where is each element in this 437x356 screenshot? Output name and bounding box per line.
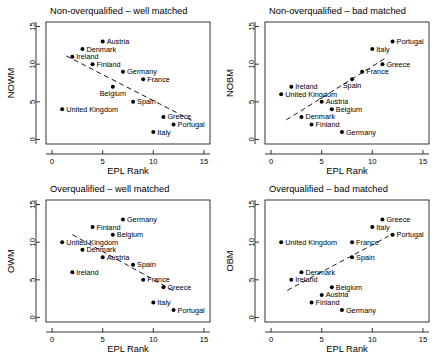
data-point bbox=[309, 300, 313, 304]
panel-non-overqualified-bad-matched: Non-overqualified – bad matched051015EPL… bbox=[219, 0, 437, 178]
x-tick-label: 5 bbox=[101, 335, 105, 344]
data-point bbox=[151, 130, 155, 134]
data-point bbox=[101, 40, 105, 44]
y-tick-label: 15 bbox=[29, 200, 38, 208]
data-point-label: Greece bbox=[386, 60, 410, 69]
data-point-label: Spain bbox=[137, 260, 156, 269]
x-tick-label: 10 bbox=[368, 157, 376, 166]
data-point bbox=[70, 55, 74, 59]
data-point-label: Belgium bbox=[100, 89, 126, 98]
data-point bbox=[279, 240, 283, 244]
panel-overqualified-well-matched: Overqualified – well matched051015EPL Ra… bbox=[0, 178, 218, 356]
data-point bbox=[172, 122, 176, 126]
y-tick-label: 0 bbox=[247, 137, 256, 141]
y-tick-label: 5 bbox=[29, 100, 38, 104]
x-axis-label: EPL Rank bbox=[107, 166, 149, 176]
data-point bbox=[172, 308, 176, 312]
y-axis-label: OBM bbox=[225, 250, 235, 271]
data-point-label: Belgium bbox=[117, 230, 143, 239]
data-point-label: Finland bbox=[315, 298, 339, 307]
data-point-label: Germany bbox=[345, 306, 375, 315]
data-point bbox=[339, 308, 343, 312]
data-point bbox=[370, 225, 374, 229]
x-axis-label: EPL Rank bbox=[107, 344, 149, 354]
y-tick-label: 5 bbox=[247, 278, 256, 282]
data-point-label: Portugal bbox=[396, 230, 424, 239]
y-tick-label: 0 bbox=[247, 315, 256, 319]
data-point bbox=[380, 218, 384, 222]
x-axis-label: EPL Rank bbox=[326, 166, 368, 176]
y-tick-label: 10 bbox=[247, 60, 256, 68]
data-point bbox=[299, 270, 303, 274]
y-tick-label: 15 bbox=[247, 22, 256, 30]
panel-title: Non-overqualified – bad matched bbox=[269, 6, 406, 16]
y-tick-label: 10 bbox=[29, 238, 38, 246]
x-tick-label: 0 bbox=[268, 335, 272, 344]
data-point-label: United Kingdom bbox=[66, 105, 118, 114]
data-point bbox=[161, 285, 165, 289]
data-point-label: Italy bbox=[157, 298, 171, 307]
data-point-label: Ireland bbox=[295, 275, 317, 284]
data-point-label: Spain bbox=[137, 97, 156, 106]
data-point bbox=[279, 92, 283, 96]
y-tick-label: 10 bbox=[29, 60, 38, 68]
data-point bbox=[131, 100, 135, 104]
data-point-label: Portugal bbox=[178, 306, 206, 315]
data-point-label: France bbox=[356, 238, 379, 247]
data-point bbox=[161, 115, 165, 119]
data-point bbox=[329, 285, 333, 289]
data-point-label: Greece bbox=[386, 215, 410, 224]
data-point bbox=[289, 278, 293, 282]
data-point-label: Germany bbox=[345, 128, 375, 137]
data-point-label: Ireland bbox=[76, 52, 98, 61]
y-tick-label: 10 bbox=[247, 238, 256, 246]
data-point bbox=[360, 70, 364, 74]
data-point-label: Austria bbox=[107, 253, 131, 262]
y-axis-label: NOWM bbox=[6, 68, 16, 98]
data-point bbox=[339, 130, 343, 134]
data-point-label: Spain bbox=[356, 253, 375, 262]
panel-title: Overqualified – well matched bbox=[50, 184, 169, 194]
data-point bbox=[60, 240, 64, 244]
data-point bbox=[80, 248, 84, 252]
y-tick-label: 0 bbox=[29, 137, 38, 141]
data-point-label: France bbox=[366, 67, 389, 76]
data-point-label: Italy bbox=[157, 128, 171, 137]
data-point bbox=[299, 115, 303, 119]
data-point bbox=[80, 47, 84, 51]
data-point bbox=[380, 62, 384, 66]
data-point bbox=[390, 40, 394, 44]
data-point bbox=[309, 122, 313, 126]
x-tick-label: 5 bbox=[101, 157, 105, 166]
data-point bbox=[131, 263, 135, 267]
y-tick-label: 5 bbox=[247, 100, 256, 104]
x-tick-label: 15 bbox=[200, 335, 208, 344]
panel-title: Non-overqualified – well matched bbox=[50, 6, 187, 16]
data-point bbox=[289, 85, 293, 89]
data-point-label: Italy bbox=[376, 223, 390, 232]
data-point bbox=[350, 255, 354, 259]
data-point bbox=[151, 300, 155, 304]
x-tick-label: 10 bbox=[149, 335, 157, 344]
y-axis-label: OWM bbox=[6, 249, 16, 273]
data-point-label: Belgium bbox=[335, 105, 361, 114]
y-tick-label: 15 bbox=[29, 22, 38, 30]
data-point bbox=[141, 77, 145, 81]
data-point bbox=[60, 107, 64, 111]
data-point-label: Finland bbox=[97, 60, 121, 69]
data-point-label: Italy bbox=[376, 45, 390, 54]
y-tick-label: 15 bbox=[247, 200, 256, 208]
panel-non-overqualified-well-matched: Non-overqualified – well matched051015EP… bbox=[0, 0, 218, 178]
panel-title: Overqualified – bad matched bbox=[269, 184, 388, 194]
x-tick-label: 10 bbox=[149, 157, 157, 166]
data-point-label: Portugal bbox=[178, 120, 206, 129]
data-point bbox=[390, 233, 394, 237]
data-point bbox=[350, 240, 354, 244]
x-tick-label: 10 bbox=[368, 335, 376, 344]
data-point-label: Germany bbox=[127, 215, 157, 224]
y-tick-label: 5 bbox=[29, 278, 38, 282]
data-point bbox=[101, 255, 105, 259]
data-point-label: Greece bbox=[167, 283, 191, 292]
x-tick-label: 5 bbox=[319, 335, 323, 344]
data-point bbox=[370, 47, 374, 51]
